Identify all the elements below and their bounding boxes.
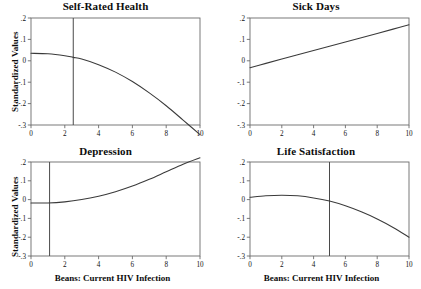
x-tick-label: 2: [280, 130, 284, 138]
x-tick-label: 6: [131, 130, 135, 138]
y-tick-label: .2: [21, 159, 27, 167]
x-tick-label: 4: [97, 261, 101, 269]
x-tick-label: 0: [29, 130, 33, 138]
multi-panel-figure: Self-Rated Health Standardized Values .2…: [0, 0, 421, 289]
x-tick-label: 6: [344, 261, 348, 269]
y-tick-label: .2: [240, 15, 246, 23]
x-tick-label: 6: [344, 130, 348, 138]
y-tick-label: 0: [22, 196, 26, 204]
y-tick-label: 0: [241, 57, 245, 65]
x-tick-label: 2: [63, 130, 67, 138]
x-tick-label: 10: [196, 130, 204, 138]
plot-area-top-right: .2.10-.1-.2-.30246810: [211, 0, 421, 145]
x-tick-label: 0: [29, 261, 33, 269]
x-tick-label: 2: [63, 261, 67, 269]
x-tick-label: 10: [196, 261, 204, 269]
data-curve: [31, 53, 200, 134]
panel-sick-days: Sick Days .2.10-.1-.2-.30246810: [211, 0, 421, 145]
panel-life-satisfaction: Life Satisfaction .2.10-.1-.2-.30246810 …: [211, 145, 421, 289]
y-tick-label: .1: [21, 177, 27, 185]
panel-depression: Depression Standardized Values .2.10-.1-…: [0, 145, 211, 289]
y-tick-label: -.3: [18, 253, 26, 261]
x-tick-label: 4: [312, 130, 316, 138]
plot-area-top-left: .2.10-.1-.2-.30246810: [0, 0, 211, 145]
plot-frame: [250, 18, 409, 125]
y-tick-label: -.1: [18, 215, 26, 223]
x-tick-label: 10: [405, 261, 413, 269]
x-tick-label: 0: [248, 130, 252, 138]
x-tick-label: 4: [312, 261, 316, 269]
x-tick-label: 4: [97, 130, 101, 138]
x-axis-label-bottom-right: Beans: Current HIV Infection: [229, 273, 414, 283]
plot-area-bottom-left: .2.10-.1-.2-.30246810: [0, 145, 211, 289]
x-tick-label: 8: [164, 261, 168, 269]
y-tick-label: .2: [21, 15, 27, 23]
x-tick-label: 6: [131, 261, 135, 269]
y-tick-label: -.2: [18, 100, 26, 108]
panel-self-rated-health: Self-Rated Health Standardized Values .2…: [0, 0, 211, 145]
y-tick-label: -.3: [237, 253, 245, 261]
y-tick-label: .1: [240, 36, 246, 44]
x-tick-label: 0: [248, 261, 252, 269]
x-tick-label: 2: [280, 261, 284, 269]
x-tick-label: 10: [405, 130, 413, 138]
data-curve: [31, 158, 200, 203]
x-tick-label: 8: [375, 130, 379, 138]
y-tick-label: .2: [240, 159, 246, 167]
x-axis-label-bottom-left: Beans: Current HIV Infection: [20, 273, 205, 283]
y-tick-label: -.1: [18, 79, 26, 87]
y-tick-label: -.3: [18, 122, 26, 130]
y-tick-label: -.2: [237, 234, 245, 242]
x-tick-label: 8: [375, 261, 379, 269]
y-tick-label: -.1: [237, 79, 245, 87]
y-tick-label: -.2: [18, 234, 26, 242]
plot-frame: [31, 18, 200, 125]
plot-frame: [31, 162, 200, 256]
y-tick-label: 0: [22, 57, 26, 65]
y-tick-label: -.2: [237, 100, 245, 108]
data-curve: [250, 25, 409, 68]
y-tick-label: -.3: [237, 122, 245, 130]
y-tick-label: .1: [240, 177, 246, 185]
x-tick-label: 8: [164, 130, 168, 138]
y-tick-label: .1: [21, 36, 27, 44]
y-tick-label: -.1: [237, 215, 245, 223]
y-tick-label: 0: [241, 196, 245, 204]
plot-area-bottom-right: .2.10-.1-.2-.30246810: [211, 145, 421, 289]
